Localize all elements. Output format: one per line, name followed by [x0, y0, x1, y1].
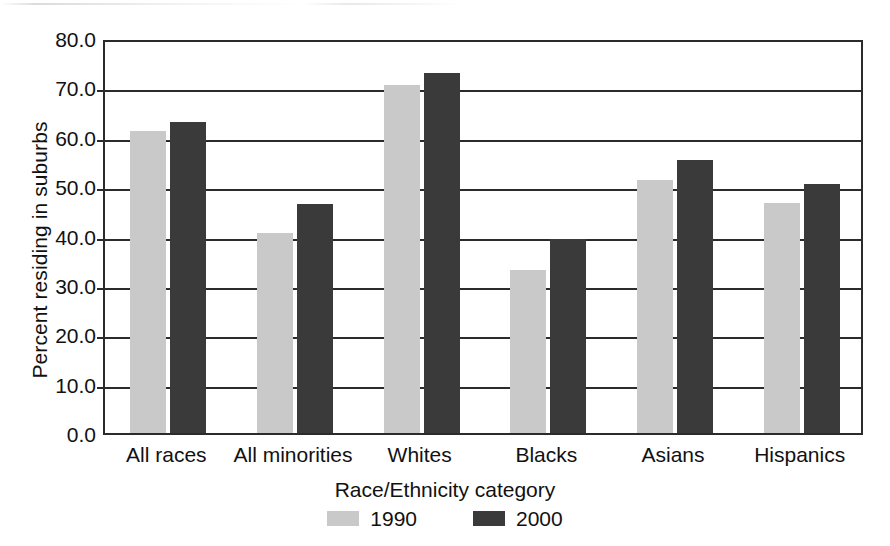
x-axis-title: Race/Ethnicity category [0, 478, 890, 502]
y-axis-tick-label: 30.0 [18, 275, 96, 299]
y-axis-tick-label: 80.0 [18, 28, 96, 52]
y-axis-tick-mark [97, 239, 105, 241]
y-axis-tick-mark [97, 288, 105, 290]
y-axis-tick-mark [97, 337, 105, 339]
bar-2000-hispanics [804, 184, 840, 433]
bar-1990-blacks [510, 270, 546, 433]
x-axis-tick-labels: All racesAll minoritiesWhitesBlacksAsian… [103, 443, 863, 473]
y-axis-tick-label: 50.0 [18, 176, 96, 200]
bar-group [764, 42, 840, 433]
y-axis-tick-mark [97, 140, 105, 142]
y-axis-tick-label: 10.0 [18, 374, 96, 398]
bar-group [510, 42, 586, 433]
bar-1990-all-minorities [257, 233, 293, 433]
bar-2000-asians [677, 160, 713, 433]
x-axis-tick-label: All minorities [233, 443, 352, 467]
gridline [105, 189, 861, 191]
bar-group [637, 42, 713, 433]
bar-2000-blacks [550, 239, 586, 433]
legend-label-2000: 2000 [516, 508, 563, 529]
gridline [105, 140, 861, 142]
legend-label-1990: 1990 [370, 508, 417, 529]
y-axis-tick-mark [97, 90, 105, 92]
plot-area [103, 40, 863, 435]
legend-swatch-1990 [327, 511, 359, 526]
gridline [105, 239, 861, 241]
bar-2000-whites [424, 73, 460, 433]
chart-legend: 19902000 [0, 508, 890, 529]
bar-1990-hispanics [764, 203, 800, 433]
y-axis-tick-label: 70.0 [18, 77, 96, 101]
y-axis-tick-labels: 0.010.020.030.040.050.060.070.080.0 [18, 40, 96, 435]
x-axis-tick-label: All races [126, 443, 207, 467]
bar-chart-figure: Percent residing in suburbs 0.010.020.03… [0, 0, 890, 546]
bar-1990-all-races [130, 131, 166, 433]
bar-2000-all-minorities [297, 204, 333, 433]
gridline [105, 337, 861, 339]
y-axis-tick-label: 40.0 [18, 226, 96, 250]
gridline [105, 90, 861, 92]
legend-entry-1990: 1990 [327, 508, 417, 529]
x-axis-tick-label: Asians [641, 443, 704, 467]
legend-entry-2000: 2000 [473, 508, 563, 529]
gridline [105, 288, 861, 290]
bar-group [130, 42, 206, 433]
y-axis-tick-label: 0.0 [18, 423, 96, 447]
x-axis-tick-label: Hispanics [754, 443, 845, 467]
x-axis-tick-label: Whites [388, 443, 452, 467]
bar-group [384, 42, 460, 433]
bar-2000-all-races [170, 122, 206, 433]
legend-swatch-2000 [473, 511, 505, 526]
bar-group [257, 42, 333, 433]
y-axis-tick-mark [97, 387, 105, 389]
gridline [105, 387, 861, 389]
bar-1990-asians [637, 180, 673, 433]
y-axis-tick-label: 60.0 [18, 127, 96, 151]
bar-1990-whites [384, 85, 420, 433]
x-axis-tick-label: Blacks [515, 443, 577, 467]
y-axis-tick-label: 20.0 [18, 324, 96, 348]
y-axis-tick-mark [97, 189, 105, 191]
